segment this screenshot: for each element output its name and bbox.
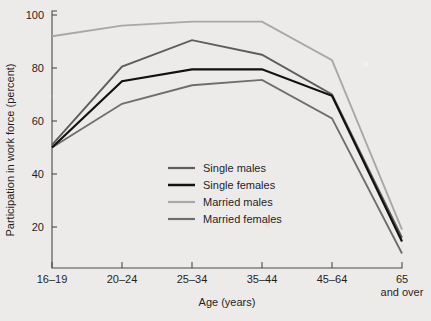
x-tick-label: 45–64: [317, 273, 348, 285]
x-tick-label: 35–44: [247, 273, 278, 285]
chart-figure: 20406080100 16–1920–2425–3435–4445–6465a…: [0, 0, 431, 321]
y-tick-marks: [52, 15, 57, 227]
x-tick-labels: 16–1920–2425–3435–4445–6465and over: [37, 273, 424, 298]
x-tick-label: 65: [396, 273, 408, 285]
x-axis-group: 16–1920–2425–3435–4445–6465and over: [37, 262, 424, 298]
x-axis-title: Age (years): [199, 296, 256, 308]
y-tick-labels: 20406080100: [26, 9, 44, 233]
x-tick-label-sub: and over: [381, 286, 424, 298]
legend-label: Single females: [203, 179, 276, 191]
chart-canvas: 20406080100 16–1920–2425–3435–4445–6465a…: [0, 0, 431, 321]
y-axis-title: Participation in work force (percent): [4, 63, 16, 236]
legend-label: Married males: [203, 196, 273, 208]
y-tick-label: 40: [32, 168, 44, 180]
x-axis-line: [52, 262, 402, 268]
legend-label: Single males: [203, 162, 266, 174]
x-tick-label: 25–34: [177, 273, 208, 285]
y-tick-label: 100: [26, 9, 44, 21]
y-tick-label: 60: [32, 115, 44, 127]
x-tick-label: 20–24: [107, 273, 138, 285]
x-tick-label: 16–19: [37, 273, 68, 285]
y-tick-label: 80: [32, 62, 44, 74]
x-tick-marks: [122, 262, 332, 268]
y-axis-group: 20406080100: [26, 9, 57, 268]
y-tick-label: 20: [32, 221, 44, 233]
legend-label: Married females: [203, 213, 282, 225]
chart-legend: Single malesSingle femalesMarried malesM…: [168, 162, 282, 225]
